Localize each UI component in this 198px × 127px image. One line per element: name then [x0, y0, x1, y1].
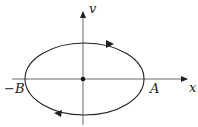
point-a-label: A: [149, 81, 159, 96]
diagram-svg: v x A −B: [0, 0, 198, 127]
point-neg-b-label: −B: [4, 81, 24, 96]
y-axis-label: v: [89, 1, 97, 16]
origin-dot: [81, 77, 86, 82]
x-axis-label: x: [189, 80, 197, 95]
phase-diagram: v x A −B: [0, 0, 198, 127]
